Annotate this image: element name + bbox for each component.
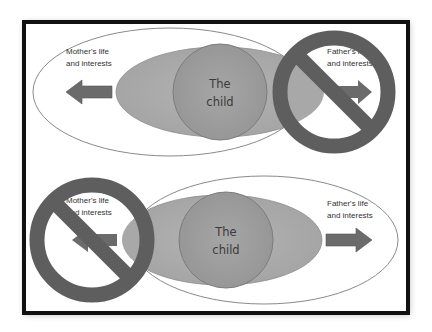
left-arrow-icon <box>66 80 112 104</box>
mother-label-line2: and interests <box>66 59 112 68</box>
child-label-line1: The <box>214 225 236 239</box>
child-circle <box>179 192 273 288</box>
diagram-canvas: Mother's life and interests The child Fa… <box>0 0 432 332</box>
father-label-line2: and interests <box>327 211 373 220</box>
child-label-line1: The <box>208 77 230 91</box>
child-label-line2: child <box>206 95 233 109</box>
top-panel: Mother's life and interests The child Fa… <box>33 28 388 156</box>
father-label-line2: and interests <box>327 59 373 68</box>
child-label-line2: child <box>212 243 239 257</box>
bottom-panel: Father's life and interests The child Mo… <box>37 176 398 304</box>
mother-label-line1: Mother's life <box>66 47 109 56</box>
mother-label-line1: Mother's life <box>66 196 109 205</box>
child-circle <box>173 44 267 140</box>
father-label-line1: Father's life <box>327 199 369 208</box>
right-arrow-icon <box>326 228 372 252</box>
